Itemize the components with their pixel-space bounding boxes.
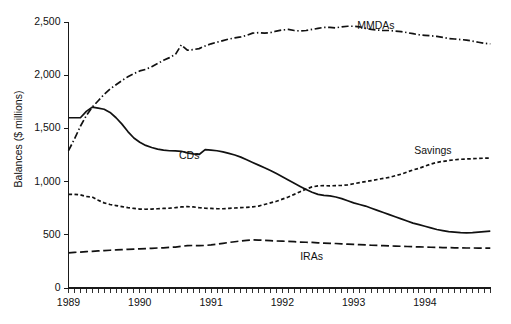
y-tick-label-0: 0 <box>55 281 61 293</box>
x-axis-minor-ticks <box>69 288 491 293</box>
series-label-iras: IRAs <box>300 250 323 262</box>
x-tick-label-1992: 1992 <box>252 296 312 308</box>
chart-figure: 05001,0001,5002,0002,500 198919901991199… <box>0 0 511 324</box>
y-tick-label-2000: 2,000 <box>34 68 60 80</box>
y-axis-title-wrapper: Balances ($ millions) <box>8 59 26 219</box>
series-line-mmdas <box>69 26 491 150</box>
x-tick-label-1989: 1989 <box>39 296 99 308</box>
series-line-savings <box>69 158 491 209</box>
x-tick-label-1990: 1990 <box>110 296 170 308</box>
chart-plot-area <box>0 0 511 324</box>
y-tick-label-500: 500 <box>43 228 61 240</box>
y-axis-ticks <box>64 22 69 288</box>
series-label-cds: CDs <box>179 149 199 161</box>
x-tick-label-1991: 1991 <box>181 296 241 308</box>
series-label-savings: Savings <box>414 144 451 156</box>
x-tick-label-1994: 1994 <box>395 296 455 308</box>
data-series-group <box>69 26 491 253</box>
axes-group <box>64 22 491 293</box>
y-tick-label-1000: 1,000 <box>34 175 60 187</box>
series-line-cds <box>69 107 491 233</box>
series-label-mmdas: MMDAs <box>357 19 394 31</box>
series-line-iras <box>69 240 491 253</box>
x-tick-label-1993: 1993 <box>324 296 384 308</box>
y-tick-label-1500: 1,500 <box>34 121 60 133</box>
y-tick-label-2500: 2,500 <box>34 15 60 27</box>
y-axis-title: Balances ($ millions) <box>12 91 24 188</box>
